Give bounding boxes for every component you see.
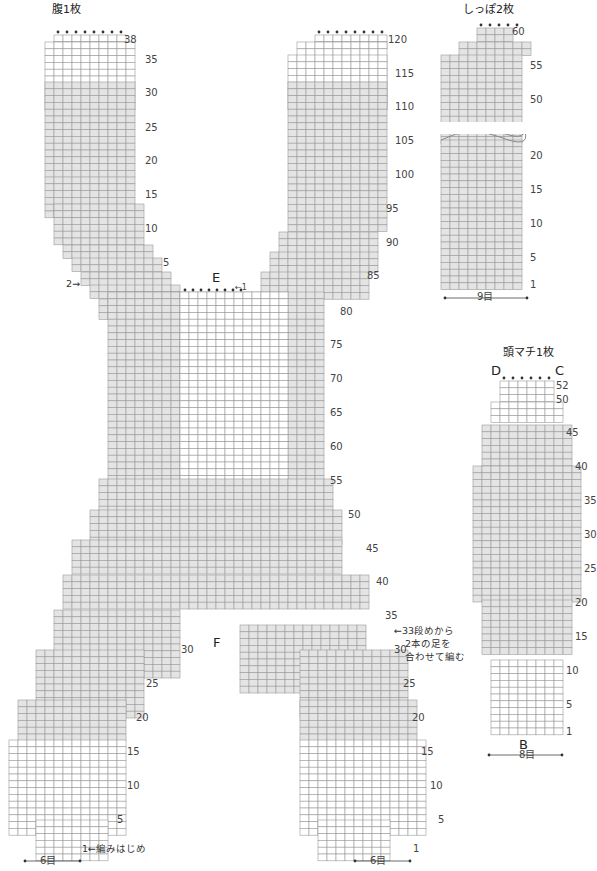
row-label: 90 [386, 238, 399, 248]
row-label: 50 [348, 510, 361, 520]
row-label: 60 [330, 442, 343, 452]
start-note: 1←編みはじめ [82, 842, 146, 855]
width-tail: 9目 [477, 292, 493, 302]
row-label: 25 [145, 123, 158, 133]
row-label: 85 [367, 271, 380, 281]
row-label: 20 [575, 598, 588, 608]
row-label: 110 [395, 102, 414, 112]
width-belly-right: 6目 [370, 856, 386, 866]
belly-title: 腹1枚 [52, 4, 81, 15]
row-label: 15 [127, 747, 140, 757]
row-label: 30 [584, 530, 597, 540]
row-label: 50 [556, 395, 569, 405]
row-label: 95 [386, 204, 399, 214]
row-label: 65 [330, 408, 343, 418]
row-label: 25 [403, 679, 416, 689]
row-label: 20 [145, 156, 158, 166]
row-label: 30 [181, 645, 194, 655]
row-label: 15 [575, 632, 588, 642]
mark-D: D [491, 364, 501, 377]
row-label: 1 [413, 844, 419, 854]
row-label: 5 [530, 253, 536, 263]
gusset-title: 頭マチ1枚 [503, 347, 554, 358]
row-label: 75 [330, 340, 343, 350]
row-label: 38 [124, 35, 137, 45]
knitting-chart-canvas [0, 0, 597, 871]
row-label: 40 [575, 462, 588, 472]
row-label: 5 [566, 700, 572, 710]
row-label: 55 [530, 61, 543, 71]
row-label: 25 [584, 564, 597, 574]
mark-F: F [213, 636, 220, 649]
row-label: 35 [385, 611, 398, 621]
row-label: 5 [438, 815, 444, 825]
width-belly-left: 6目 [40, 856, 56, 866]
row-label: 35 [145, 55, 158, 65]
arrow-1-label: ←1 [235, 284, 247, 292]
row-label: 52 [556, 381, 569, 391]
row-label: 30 [145, 88, 158, 98]
row-label: 120 [388, 35, 407, 45]
mark-E: E [212, 271, 220, 284]
row-label: 10 [127, 781, 140, 791]
row-label: 55 [330, 476, 343, 486]
row-label: 20 [530, 151, 543, 161]
arrow-2-label: 2→ [66, 277, 80, 290]
row-label: 20 [136, 713, 149, 723]
row-label: 10 [430, 781, 443, 791]
row-label: 10 [145, 224, 158, 234]
mark-C: C [555, 364, 564, 377]
row-label: 115 [395, 69, 414, 79]
row-label: 105 [395, 136, 414, 146]
row-label: 1 [566, 727, 572, 737]
row-label: 35 [584, 496, 597, 506]
row-label: 40 [376, 577, 389, 587]
row-label: 1 [530, 280, 536, 290]
row-label: 20 [412, 713, 425, 723]
row-label: 5 [163, 258, 169, 268]
row-label: 70 [330, 374, 343, 384]
row-label: 45 [366, 544, 379, 554]
row-label: 45 [566, 428, 579, 438]
row-label: 100 [395, 170, 414, 180]
join-note-3: 合わせて編む [405, 650, 465, 663]
row-label: 10 [530, 219, 543, 229]
join-note-1: ←33段めから [394, 624, 454, 637]
row-label: 15 [145, 190, 158, 200]
row-label: 30 [394, 645, 407, 655]
row-label: 15 [530, 185, 543, 195]
row-label: 5 [117, 815, 123, 825]
row-label: 10 [566, 666, 579, 676]
row-label: 25 [146, 679, 159, 689]
join-note-2: 2本の足を [405, 637, 451, 650]
row-label: 60 [512, 27, 525, 37]
row-label: 15 [421, 747, 434, 757]
width-gusset: 8目 [519, 750, 535, 760]
row-label: 80 [340, 307, 353, 317]
tail-title: しっぽ2枚 [463, 4, 514, 15]
row-label: 50 [530, 95, 543, 105]
